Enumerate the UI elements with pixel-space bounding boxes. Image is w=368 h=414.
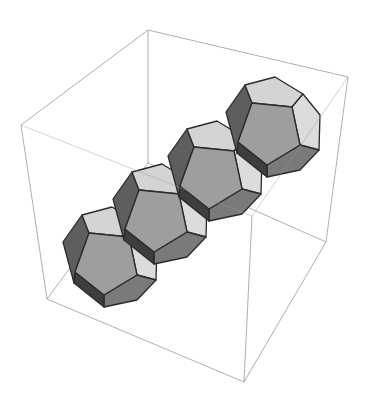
box-edge-bottom-front-left <box>47 299 244 382</box>
box-edge-top-right <box>148 30 348 77</box>
box-edge-bottom-front-right <box>244 242 326 382</box>
box-edge-front-vertical <box>244 216 252 382</box>
box-edge-top-left <box>21 30 148 125</box>
dodecahedra-chart-figure: 3D rendering of four regular dodecahedra… <box>0 0 368 414</box>
figure-canvas <box>0 0 368 414</box>
box-edge-right-vertical <box>326 77 348 242</box>
box-edge-left-vertical <box>21 125 47 299</box>
